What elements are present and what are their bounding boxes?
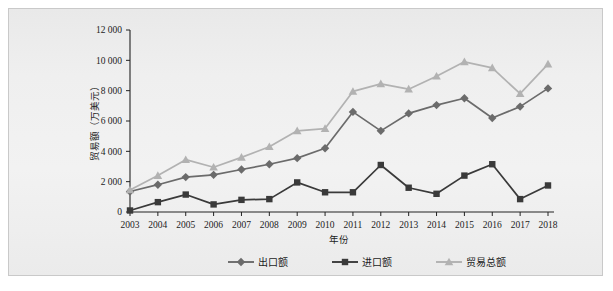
data-point-marker [516,102,524,110]
data-point-marker [210,201,216,207]
x-axis-tick-label: 2006 [204,220,223,230]
series-line [130,164,548,210]
series-line [130,88,548,191]
x-axis-tick-label: 2012 [371,220,390,230]
x-axis-tick-label: 2011 [344,220,363,230]
series-2-square [127,161,551,214]
data-point-marker [127,207,133,213]
data-point-marker [237,165,245,173]
data-point-marker [155,199,161,205]
legend-label: 出口额 [258,256,288,268]
data-point-marker [350,189,356,195]
y-axis-tick-label: 0 [117,207,122,217]
x-axis-tick-label: 2018 [539,220,558,230]
legend-label: 进口额 [362,256,392,268]
x-axis-tick-label: 2010 [316,220,335,230]
legend-item-2[interactable]: 进口额 [332,256,392,268]
legend-label: 贸易总额 [466,256,506,268]
x-axis-tick-label: 2016 [483,220,502,230]
data-point-marker [266,196,272,202]
x-axis-title: 年份 [329,234,349,245]
data-point-marker [322,189,328,195]
data-point-marker [432,72,441,80]
y-axis-tick-label: 12 000 [96,25,122,35]
data-point-marker [432,101,440,109]
series-line [130,62,548,190]
x-axis-tick-label: 2009 [288,220,307,230]
data-point-marker [238,197,244,203]
data-point-marker [293,154,301,162]
x-axis-tick-label: 2007 [232,220,251,230]
data-point-marker [265,160,273,168]
x-axis-tick-label: 2015 [455,220,474,230]
data-point-marker [154,181,162,189]
data-point-marker [377,80,386,88]
data-point-marker [545,182,551,188]
data-point-marker [544,60,553,68]
series-3-triangle [126,58,553,194]
data-point-marker [183,191,189,197]
data-point-marker [378,162,384,168]
data-point-marker [294,179,300,185]
legend-item-1[interactable]: 出口额 [228,256,288,268]
data-point-marker [237,258,245,266]
trade-volume-line-chart: 02 0004 0006 0008 00010 00012 0002003200… [0,0,613,291]
x-axis-tick-label: 2014 [427,220,446,230]
y-axis-tick-label: 2 000 [101,177,123,187]
y-axis-tick-label: 4 000 [101,147,123,157]
data-point-marker [126,186,135,194]
data-point-marker [460,58,469,66]
data-point-marker [209,171,217,179]
chart-container: 02 0004 0006 0008 00010 00012 0002003200… [0,0,613,291]
data-point-marker [265,142,274,150]
data-point-marker [405,185,411,191]
x-axis-tick-label: 2003 [121,220,140,230]
y-axis-title: 贸易额（万美元） [89,81,100,161]
legend-item-3[interactable]: 贸易总额 [436,256,506,268]
y-axis-tick-label: 10 000 [96,56,122,66]
data-point-marker [489,161,495,167]
data-point-marker [517,196,523,202]
data-point-marker [544,84,552,92]
data-point-marker [182,173,190,181]
data-point-marker [404,109,412,117]
x-axis-tick-label: 2005 [176,220,195,230]
data-point-marker [181,155,190,163]
data-point-marker [461,172,467,178]
series-1-diamond [126,84,552,196]
y-axis-tick-label: 8 000 [101,86,123,96]
data-point-marker [154,171,163,179]
x-axis-tick-label: 2017 [511,220,530,230]
x-axis-tick-label: 2008 [260,220,279,230]
x-axis-tick-label: 2004 [148,220,167,230]
y-axis-tick-label: 6 000 [101,116,123,126]
x-axis-tick-label: 2013 [399,220,418,230]
data-point-marker [433,191,439,197]
data-point-marker [342,259,348,265]
